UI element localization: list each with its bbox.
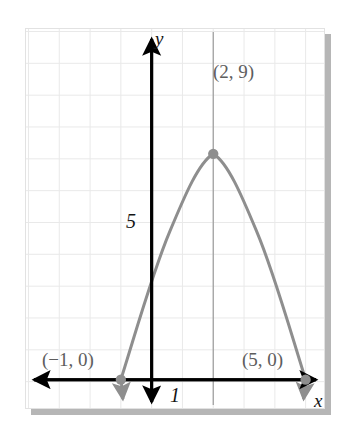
left-x-intercept-point	[116, 374, 126, 384]
vertex-label: (2, 9)	[213, 62, 254, 81]
vertex-point	[208, 149, 218, 159]
y-axis-scale-label: 5	[126, 211, 136, 231]
x-axis-scale-label: 1	[170, 385, 180, 405]
left-x-intercept-label: (−1, 0)	[42, 350, 94, 369]
x-axis-name-label: x	[314, 391, 322, 410]
y-axis-name-label: y	[155, 29, 163, 48]
right-x-intercept-label: (5, 0)	[242, 350, 283, 369]
right-x-intercept-point	[300, 374, 310, 384]
parabola-figure: (2, 9) (−1, 0) (5, 0) 5 1 x y	[0, 0, 349, 447]
